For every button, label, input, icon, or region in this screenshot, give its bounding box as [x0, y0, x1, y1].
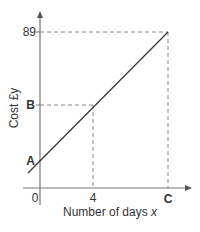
y-axis-arrow-icon [37, 11, 43, 18]
x-axis-title-var: x [150, 205, 158, 219]
x-tick-c: C [164, 192, 173, 206]
x-axis-arrow-icon [185, 185, 192, 191]
x-axis-title: Number of days x [63, 205, 158, 219]
line-chart: 89 B A 0 4 C Cost £y Number of days x [0, 0, 200, 232]
y-tick-a: A [26, 154, 35, 168]
y-tick-89: 89 [23, 25, 37, 39]
cost-line [28, 32, 168, 173]
x-axis-title-text: Number of days [63, 205, 151, 219]
x-tick-4: 4 [90, 191, 97, 205]
x-tick-origin: 0 [32, 191, 39, 205]
y-tick-b: B [26, 98, 35, 112]
y-axis-title: Cost £y [7, 88, 21, 129]
